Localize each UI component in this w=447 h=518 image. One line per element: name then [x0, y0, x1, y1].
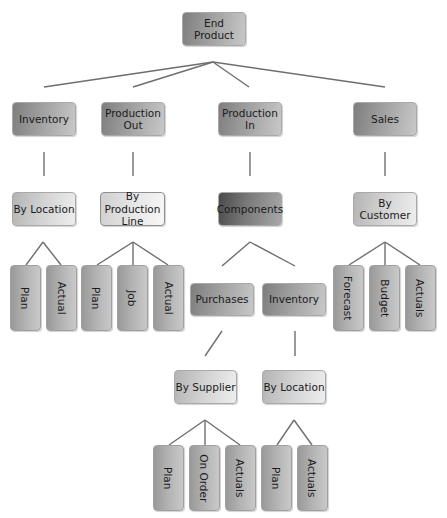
node-label-line1: Production	[105, 107, 161, 120]
node-location-plan: Plan	[261, 445, 292, 511]
node-inventory-actual: Actual	[46, 265, 77, 331]
node-label-line2: Line	[122, 215, 144, 228]
node-supplier-on-order: On Order	[189, 445, 220, 511]
node-label: End Product	[183, 17, 245, 42]
node-by-supplier: By Supplier	[174, 370, 237, 404]
node-label: Actuals	[234, 459, 247, 497]
node-label: Plan	[19, 287, 32, 309]
node-components-inventory: Inventory	[262, 283, 326, 316]
node-label: Plan	[90, 287, 103, 309]
node-label-line1: By Production	[101, 190, 164, 215]
node-label: By Location	[263, 381, 324, 394]
node-supplier-actuals: Actuals	[225, 445, 256, 511]
node-sales: Sales	[353, 102, 417, 136]
node-production-line-actual: Actual	[153, 265, 184, 331]
hierarchy-diagram: End Product Inventory Production Out Pro…	[0, 0, 447, 518]
node-production-out: Production Out	[101, 102, 165, 136]
node-by-production-line: By Production Line	[100, 192, 165, 226]
node-label: Plan	[270, 467, 283, 489]
node-label: Inventory	[19, 113, 69, 126]
node-label: Forecast	[342, 276, 355, 320]
node-label: Sales	[371, 113, 399, 126]
node-customer-actuals: Actuals	[405, 265, 436, 331]
node-label: By Supplier	[175, 381, 235, 394]
node-location-actuals: Actuals	[297, 445, 328, 511]
node-label: Components	[217, 203, 283, 216]
node-production-line-job: Job	[117, 265, 148, 331]
node-label: By Customer	[354, 197, 416, 222]
node-supplier-plan: Plan	[153, 445, 184, 511]
node-label-line2: Out	[123, 119, 142, 132]
node-label-line1: Production	[222, 107, 278, 120]
node-label: Purchases	[195, 293, 248, 306]
node-label: Inventory	[269, 293, 319, 306]
node-production-in: Production In	[218, 102, 282, 136]
node-label: Budget	[378, 279, 391, 317]
node-production-line-plan: Plan	[81, 265, 112, 331]
node-label: Actuals	[414, 279, 427, 317]
node-customer-budget: Budget	[369, 265, 400, 331]
node-label: Actual	[162, 282, 175, 315]
node-by-location: By Location	[12, 192, 76, 226]
connector-lines	[0, 0, 447, 518]
node-label: By Location	[13, 203, 74, 216]
node-label: On Order	[198, 454, 211, 502]
node-label: Actuals	[306, 459, 319, 497]
node-components-by-location: By Location	[262, 370, 326, 404]
node-customer-forecast: Forecast	[333, 265, 364, 331]
node-inventory: Inventory	[12, 102, 76, 136]
node-label-line2: In	[245, 119, 255, 132]
node-by-customer: By Customer	[353, 192, 417, 226]
node-components: Components	[218, 192, 282, 226]
node-end-product: End Product	[182, 12, 246, 46]
node-label: Actual	[55, 282, 68, 315]
node-inventory-plan: Plan	[10, 265, 41, 331]
node-label: Job	[126, 290, 139, 306]
node-purchases: Purchases	[190, 283, 254, 316]
node-label: Plan	[162, 467, 175, 489]
